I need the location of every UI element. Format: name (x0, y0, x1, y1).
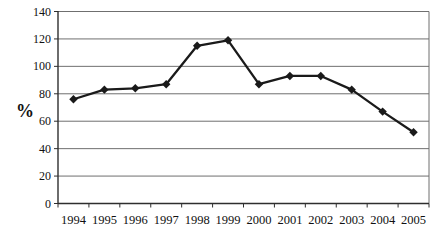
x-axis-tick-label: 2002 (308, 213, 333, 227)
data-point-marker (100, 85, 108, 93)
x-axis-tick-label: 2003 (339, 213, 364, 227)
x-axis-tick-label: 1995 (92, 213, 117, 227)
y-axis-tick-label: 20 (39, 169, 51, 183)
y-axis-tick-label: 40 (39, 142, 51, 156)
data-point-marker (317, 72, 325, 80)
x-axis-tick-label: 1994 (61, 213, 87, 227)
x-axis-tick-label: 1997 (154, 213, 179, 227)
y-axis-tick-label: 60 (39, 114, 51, 128)
data-point-marker (286, 72, 294, 80)
chart-plot-area: 0204060801001201401994199519961997199819… (0, 0, 444, 241)
x-axis-tick-label: 2005 (401, 213, 426, 227)
y-axis-tick-label: 80 (39, 87, 51, 101)
data-point-marker (131, 84, 139, 92)
x-axis-tick-label: 1998 (185, 213, 210, 227)
line-chart: % 02040608010012014019941995199619971998… (0, 0, 444, 241)
x-axis-tick-label: 2000 (246, 213, 271, 227)
y-axis-tick-label: 100 (33, 59, 51, 73)
x-axis-tick-label: 2001 (277, 213, 302, 227)
data-point-marker (69, 95, 77, 103)
y-axis-tick-label: 140 (33, 5, 51, 19)
x-axis-tick-label: 1996 (123, 213, 148, 227)
x-axis-tick-label: 1999 (216, 213, 241, 227)
series-line (73, 40, 413, 132)
y-axis-tick-label: 120 (33, 32, 51, 46)
x-axis-tick-label: 2004 (370, 213, 396, 227)
y-axis-tick-label: 0 (45, 197, 51, 211)
